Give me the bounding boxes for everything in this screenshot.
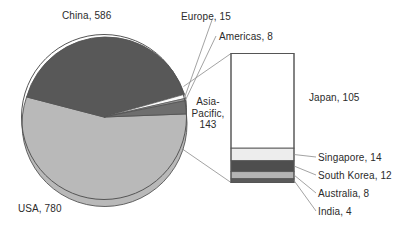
leader-singapore [294,155,316,158]
leader-india [294,181,316,212]
pie-label-asia-pacific-line2: Pacific, [185,108,231,120]
pie-label-asia-pacific-line3: 143 [185,119,231,131]
pie-label-china: China, 586 [62,10,111,22]
pie-label-europe: Europe, 15 [181,11,231,23]
leader-europe [185,20,212,96]
bar-of-pie-chart: China, 586 USA, 780 Europe, 15 Americas,… [0,0,411,232]
bar-segment-singapore [231,148,294,161]
pie-label-leaders [185,20,216,99]
pie-label-americas: Americas, 8 [219,31,273,43]
bar-segment-japan [231,54,294,149]
leader-south-korea [294,166,316,175]
bar-label-south-korea: South Korea, 12 [318,170,392,182]
leader-australia [294,175,316,193]
bar-segment-australia [231,172,294,179]
connector-bottom [178,146,231,183]
leader-americas [186,36,216,99]
bar-segment-india [231,179,294,183]
bar-label-australia: Australia, 8 [318,188,369,200]
bar-label-leaders [294,155,316,212]
bar-label-japan: Japan, 105 [309,92,360,104]
stacked-bar-group [231,54,294,183]
bar-label-india: India, 4 [318,206,352,218]
pie-group [22,35,188,207]
bar-segment-south-korea [231,161,294,172]
pie-label-usa: USA, 780 [18,203,62,215]
pie-label-asia-pacific: Asia- Pacific, 143 [185,96,231,131]
pie-label-asia-pacific-line1: Asia- [185,96,231,108]
bar-label-singapore: Singapore, 14 [318,152,382,164]
